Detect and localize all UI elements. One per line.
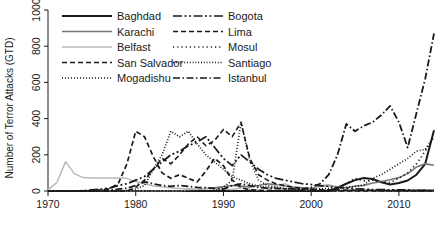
- y-axis-tick-label: 400: [30, 110, 42, 128]
- x-axis-tick-label: 2000: [300, 198, 324, 210]
- legend-label: Karachi: [117, 26, 154, 38]
- y-axis-tick-label: 1000: [30, 0, 42, 22]
- x-axis: 19701980199020002010: [36, 191, 434, 210]
- legend-label: Bogota: [228, 10, 264, 22]
- legend-item: Mogadishu: [62, 72, 171, 84]
- terror-attacks-line-chart: Number of Terror Attacks (GTD) 020040060…: [0, 0, 440, 229]
- legend-label: Mosul: [228, 41, 257, 53]
- y-axis-tick-label: 200: [30, 146, 42, 164]
- x-axis-tick-label: 1990: [212, 198, 236, 210]
- legend-item: Santiago: [173, 57, 271, 69]
- legend-label: Belfast: [117, 41, 151, 53]
- y-axis: 02004006008001000: [30, 0, 48, 194]
- legend-label: Mogadishu: [117, 72, 171, 84]
- legend-item: Belfast: [62, 41, 151, 53]
- x-axis-tick-label: 1980: [124, 198, 148, 210]
- y-axis-tick-label: 800: [30, 37, 42, 55]
- legend-item: Karachi: [62, 26, 154, 38]
- x-axis-tick-label: 1970: [36, 198, 60, 210]
- legend-item: Bogota: [173, 10, 264, 22]
- legend-item: Istanbul: [173, 72, 267, 84]
- legend-item: Baghdad: [62, 10, 161, 22]
- x-axis-tick-label: 2010: [387, 198, 411, 210]
- y-axis-tick-label: 600: [30, 73, 42, 91]
- legend-label: Baghdad: [117, 10, 161, 22]
- legend-label: Lima: [228, 26, 253, 38]
- y-axis-title: Number of Terror Attacks (GTD): [4, 38, 15, 179]
- legend-item: Mosul: [173, 41, 257, 53]
- figure-container: Number of Terror Attacks (GTD) 020040060…: [0, 0, 440, 229]
- legend-label: Istanbul: [228, 72, 267, 84]
- y-axis-tick-label: 0: [30, 188, 42, 194]
- legend-label: Santiago: [228, 57, 271, 69]
- legend-item: Lima: [173, 26, 253, 38]
- legend-item: San Salvador: [62, 57, 183, 69]
- chart-legend: BaghdadKarachiBelfastSan SalvadorMogadis…: [62, 10, 271, 84]
- y-axis-title-text: Number of Terror Attacks (GTD): [4, 38, 15, 179]
